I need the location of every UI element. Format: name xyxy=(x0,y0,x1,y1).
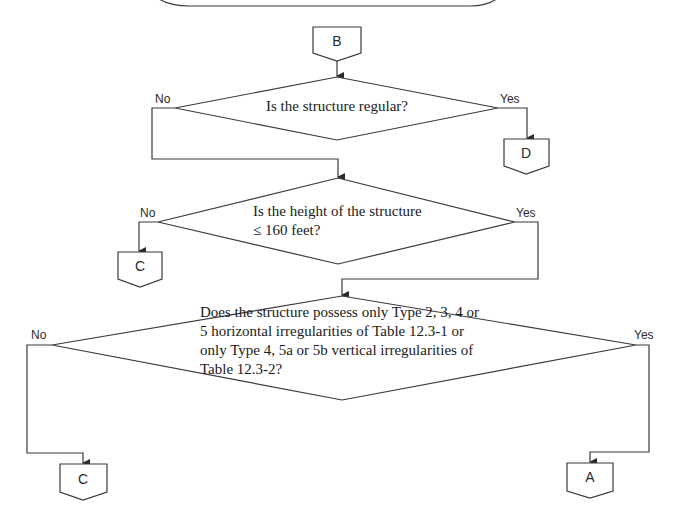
previous-process-box xyxy=(150,0,505,6)
decision3-text-line4: Table 12.3-2? xyxy=(200,361,283,377)
connector-b-label: B xyxy=(332,33,341,49)
connector-c-upper-label: C xyxy=(135,258,145,274)
arrow-decision3-no xyxy=(27,345,83,463)
connector-a-label: A xyxy=(585,469,595,485)
connector-c-upper: C xyxy=(118,252,162,287)
decision3-text-line3: only Type 4, 5a or 5b vertical irregular… xyxy=(200,342,473,358)
connector-a: A xyxy=(567,463,613,498)
decision1-text: Is the structure regular? xyxy=(266,98,408,114)
decision-height-limit: Is the height of the structure ≤ 160 fee… xyxy=(158,178,515,264)
decision1-yes-label: Yes xyxy=(500,92,520,106)
decision3-no-label: No xyxy=(31,328,47,342)
decision-structure-regular: Is the structure regular? xyxy=(175,77,498,140)
decision2-yes-label: Yes xyxy=(516,206,536,220)
decision3-text-line2: 5 horizontal irregularities of Table 12.… xyxy=(200,323,464,339)
arrow-decision3-yes xyxy=(590,345,649,462)
arrow-decision2-no xyxy=(139,222,158,251)
decision-irregularity-types: Does the structure possess only Type 2, … xyxy=(52,296,636,400)
decision2-no-label: No xyxy=(140,206,156,220)
connector-d-label: D xyxy=(521,145,531,161)
decision3-text-line1: Does the structure possess only Type 2, … xyxy=(200,304,479,320)
decision2-text-line2: ≤ 160 feet? xyxy=(253,222,321,238)
connector-c-lower-label: C xyxy=(78,471,88,487)
connector-b: B xyxy=(313,27,361,61)
decision2-text-line1: Is the height of the structure xyxy=(253,203,422,219)
arrow-decision1-yes xyxy=(498,108,527,138)
flowchart: B Is the structure regular? No Yes D Is … xyxy=(0,0,684,526)
decision3-yes-label: Yes xyxy=(634,328,654,342)
connector-c-lower: C xyxy=(60,464,107,500)
decision1-no-label: No xyxy=(155,92,171,106)
connector-d: D xyxy=(504,139,549,174)
